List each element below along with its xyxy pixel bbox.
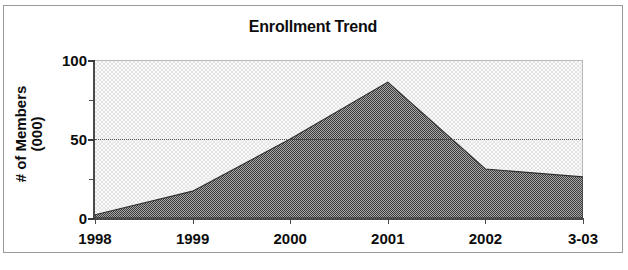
x-tick-label-1998: 1998 [78, 230, 111, 247]
x-tick-label-2002: 2002 [469, 230, 502, 247]
chart-title: Enrollment Trend [4, 18, 622, 36]
x-tick-2000 [290, 218, 291, 224]
y-minor-tick-25 [89, 179, 95, 180]
x-tick-1998 [95, 218, 96, 224]
y-axis-title-line2: (000) [28, 116, 45, 151]
x-tick-label-2001: 2001 [371, 230, 404, 247]
y-tick-100 [88, 60, 95, 62]
x-tick-3-03 [583, 218, 584, 224]
x-tick-label-3-03: 3-03 [568, 230, 598, 247]
x-tick-2002 [485, 218, 486, 224]
y-minor-tick-75 [89, 100, 95, 101]
y-axis-title: # of Members (000) [10, 46, 48, 221]
x-tick-2001 [388, 218, 389, 224]
x-tick-label-2000: 2000 [274, 230, 307, 247]
y-axis-title-text: # of Members (000) [13, 85, 45, 182]
y-tick-label-50: 50 [70, 131, 87, 148]
y-axis-title-line1: # of Members [12, 85, 29, 182]
y-tick-label-100: 100 [62, 52, 87, 69]
chart-figure: Enrollment Trend # of Members (000) 0501… [3, 5, 623, 253]
x-tick-label-1999: 1999 [176, 230, 209, 247]
x-tick-1999 [193, 218, 194, 224]
gridline-50 [95, 139, 583, 140]
y-tick-0 [88, 218, 95, 220]
y-tick-label-0: 0 [79, 210, 87, 227]
plot-area: 050100 199819992000200120023-03 [93, 60, 583, 220]
y-tick-50 [88, 139, 95, 141]
